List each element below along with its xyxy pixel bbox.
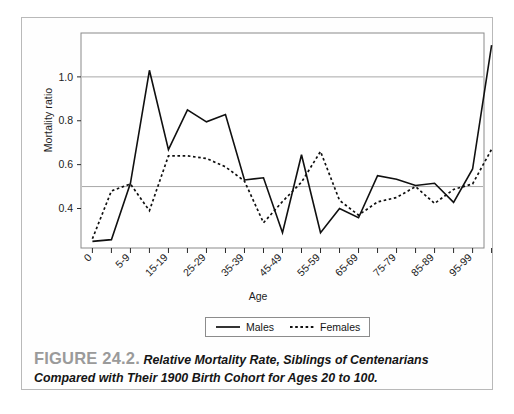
y-axis-tick-label: 0.4 [58,202,73,214]
legend-label-males: Males [246,321,274,333]
x-axis-tick-label: 15-19 [142,251,170,279]
x-axis-tick-label: 5-9 [113,251,132,270]
x-axis-title: Age [22,290,494,302]
chart-plot-area: 0.40.60.81.0 05-915-1925-2935-3945-4955-… [22,18,494,298]
figure-container: 0.40.60.81.0 05-915-1925-2935-3945-4955-… [21,17,493,390]
chart-legend: Males Females [205,317,370,337]
x-axis-tick-label: 95-99 [447,251,475,279]
plot-frame [81,33,484,248]
x-axis-tick-label: 85-89 [409,251,437,279]
legend-entry-males: Males [215,321,274,333]
y-axis-tick-label: 0.8 [58,114,73,126]
legend-swatch-solid-icon [215,322,241,332]
legend-label-females: Females [320,321,360,333]
legend-entry-females: Females [289,321,360,333]
figure-number: FIGURE 24.2. [34,349,140,367]
x-axis-tick-label: 45-49 [256,251,284,279]
x-axis-tick-label: 55-59 [294,251,322,279]
legend-swatch-dotted-icon [289,322,315,332]
x-axis-tick-label: 35-39 [218,251,246,279]
x-axis-tick-label: 75-79 [370,251,398,279]
y-axis-ticks-group: 0.40.60.81.0 [58,71,81,215]
x-axis-tick-label: 25-29 [180,251,208,279]
x-axis-tick-label: 65-69 [332,251,360,279]
y-axis-tick-label: 1.0 [58,71,73,83]
x-axis-ticks-group: 05-915-1925-2935-3945-4955-5965-6975-798… [81,248,491,278]
line-chart-svg: 0.40.60.81.0 05-915-1925-2935-3945-4955-… [22,18,494,298]
figure-caption: FIGURE 24.2. Relative Mortality Rate, Si… [34,348,486,386]
y-axis-title: Mortality ratio [42,60,54,180]
y-axis-tick-label: 0.6 [58,158,73,170]
